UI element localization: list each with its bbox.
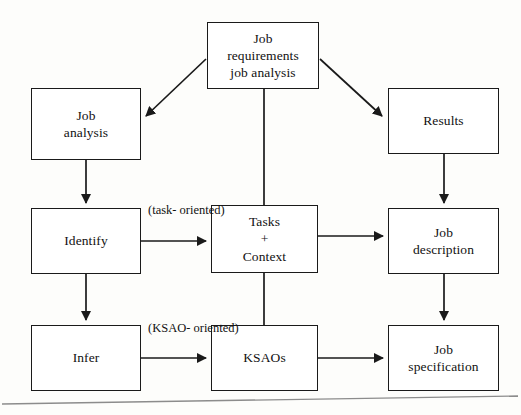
- node-line: requirements: [227, 47, 299, 64]
- node-line: Job: [434, 224, 453, 241]
- node-line: job analysis: [230, 64, 295, 81]
- node-job-description[interactable]: Job description: [388, 208, 499, 274]
- diagram-canvas: Job requirements job analysis Job analys…: [0, 0, 521, 415]
- edge-label-line: (task-: [148, 203, 176, 217]
- node-job-specification[interactable]: Job specification: [388, 325, 499, 391]
- node-line: Job: [434, 341, 453, 358]
- node-identify[interactable]: Identify: [31, 208, 141, 274]
- node-tasks-context[interactable]: Tasks + Context: [211, 205, 318, 273]
- edge-label-line: oriented): [180, 203, 225, 217]
- node-line: Job: [253, 30, 272, 47]
- node-line: analysis: [64, 124, 108, 141]
- edge-label-ksao-oriented: (KSAO- oriented): [148, 321, 218, 336]
- node-line: Tasks: [249, 213, 280, 230]
- node-infer[interactable]: Infer: [31, 325, 141, 391]
- node-line: description: [413, 241, 474, 258]
- node-job-analysis[interactable]: Job analysis: [31, 88, 141, 160]
- node-line: +: [261, 230, 269, 247]
- node-results[interactable]: Results: [388, 88, 499, 154]
- edge-label-line: oriented): [193, 321, 238, 335]
- node-line: KSAOs: [243, 349, 286, 366]
- node-line: Job: [76, 107, 95, 124]
- node-line: Results: [423, 112, 463, 129]
- edge-top-to-results: [320, 59, 382, 116]
- bottom-rule: [2, 396, 518, 404]
- node-line: specification: [408, 358, 478, 375]
- edge-label-line: (KSAO-: [148, 321, 190, 335]
- node-line: Infer: [73, 349, 100, 366]
- node-job-requirements-job-analysis[interactable]: Job requirements job analysis: [207, 22, 319, 89]
- edge-label-task-oriented: (task- oriented): [148, 203, 214, 218]
- node-line: Context: [243, 248, 286, 265]
- edge-top-to-jobanalysis: [146, 59, 206, 116]
- node-line: Identify: [64, 232, 108, 249]
